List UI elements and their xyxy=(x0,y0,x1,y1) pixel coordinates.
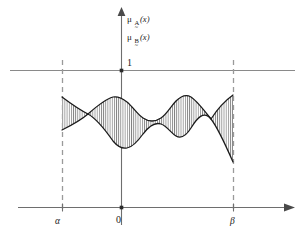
origin-label: 0 xyxy=(116,214,121,225)
level-one-label: 1 xyxy=(127,57,132,68)
alpha-label: α xyxy=(55,216,61,226)
beta-label: β xyxy=(229,216,235,226)
mu-a-axis-label: μ A ~ (x) xyxy=(127,14,150,30)
level-one-marker xyxy=(120,69,124,73)
intersection-hatched-region xyxy=(58,85,238,175)
mu-a-argument: (x) xyxy=(140,14,150,24)
x-axis-arrowhead xyxy=(284,204,295,212)
origin-marker xyxy=(120,206,124,210)
mu-b-argument: (x) xyxy=(140,32,150,42)
y-axis-arrowhead xyxy=(118,7,126,16)
mu-a-curve xyxy=(62,97,233,162)
mu-b-symbol: μ xyxy=(127,32,132,42)
mu-a-symbol: μ xyxy=(127,14,132,24)
fuzzy-membership-figure: μ A ~ (x) μ B ~ (x) 1 0 α β xyxy=(0,0,303,243)
mu-b-axis-label: μ B ~ (x) xyxy=(127,32,150,48)
